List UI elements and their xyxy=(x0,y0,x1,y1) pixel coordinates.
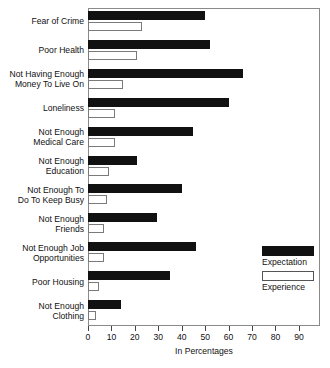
bar-expectation xyxy=(88,184,182,193)
y-axis-label: Not EnoughEducation xyxy=(0,156,84,176)
legend-label-experience: Experience xyxy=(262,282,318,292)
bar-expectation xyxy=(88,242,196,251)
x-axis-tick-label: 40 xyxy=(170,332,194,342)
legend-swatch-expectation xyxy=(262,246,314,256)
x-axis-tick xyxy=(135,326,136,331)
y-axis-label: Not EnoughMedical Care xyxy=(0,127,84,147)
y-axis-label-line: Opportunities xyxy=(0,253,84,263)
x-axis-tick xyxy=(88,326,89,331)
bar-expectation xyxy=(88,300,121,309)
bar-expectation xyxy=(88,40,210,49)
y-axis-label-line: Not Enough xyxy=(0,156,84,166)
x-axis-tick-label: 20 xyxy=(123,332,147,342)
y-axis-label-line: Loneliness xyxy=(0,103,84,113)
x-axis-tick-label: 30 xyxy=(146,332,170,342)
bar-expectation xyxy=(88,127,193,136)
x-axis-tick-label: 10 xyxy=(99,332,123,342)
legend-label-expectation: Expectation xyxy=(262,257,318,267)
x-axis-tick xyxy=(182,326,183,331)
x-axis-tick-label: 80 xyxy=(263,332,287,342)
bar-experience xyxy=(88,311,96,320)
x-axis-tick xyxy=(229,326,230,331)
y-axis-label: Not EnoughFriends xyxy=(0,214,84,234)
x-axis-tick-label: 50 xyxy=(193,332,217,342)
bar-expectation xyxy=(88,271,170,280)
y-axis-label: Loneliness xyxy=(0,103,84,113)
x-axis-tick-label: 90 xyxy=(287,332,311,342)
bar-experience xyxy=(88,22,142,31)
bar-group xyxy=(88,153,320,182)
bar-group xyxy=(88,66,320,95)
x-axis-tick xyxy=(111,326,112,331)
bar-experience xyxy=(88,80,123,89)
bar-expectation xyxy=(88,11,205,20)
y-axis-label-line: Education xyxy=(0,166,84,176)
x-axis-tick-label: 0 xyxy=(76,332,100,342)
y-axis-label-line: Not Enough To xyxy=(0,185,84,195)
bar-expectation xyxy=(88,213,157,222)
y-axis-label: Not Having EnoughMoney To Live On xyxy=(0,69,84,89)
y-axis-label: Fear of Crime xyxy=(0,16,84,26)
bar-expectation xyxy=(88,156,137,165)
x-axis-tick xyxy=(252,326,253,331)
y-axis-label-line: Not Enough xyxy=(0,127,84,137)
bar-group xyxy=(88,95,320,124)
x-axis-tick xyxy=(205,326,206,331)
x-axis-tick-label: 60 xyxy=(217,332,241,342)
chart-legend: Expectation Experience xyxy=(262,246,318,296)
bar-experience xyxy=(88,195,107,204)
bar-expectation xyxy=(88,98,229,107)
bar-group xyxy=(88,124,320,153)
y-axis-label-line: Poor Housing xyxy=(0,277,84,287)
bar-group xyxy=(88,297,320,326)
y-axis-label-line: Poor Health xyxy=(0,45,84,55)
legend-swatch-experience xyxy=(262,271,314,281)
bar-chart: Fear of CrimePoor HealthNot Having Enoug… xyxy=(0,0,330,368)
bar-group xyxy=(88,8,320,37)
bar-group xyxy=(88,181,320,210)
y-axis-label: Poor Housing xyxy=(0,277,84,287)
x-axis-tick-labels: 0102030405060708090 xyxy=(0,332,330,344)
bar-group xyxy=(88,37,320,66)
y-axis-label-line: Medical Care xyxy=(0,137,84,147)
y-axis-label-line: Fear of Crime xyxy=(0,16,84,26)
y-axis-label-line: Not Enough Job xyxy=(0,243,84,253)
y-axis-label: Not Enough ToDo To Keep Busy xyxy=(0,185,84,205)
bar-experience xyxy=(88,167,109,176)
y-axis-label: Not Enough JobOpportunities xyxy=(0,243,84,263)
y-axis-label-line: Money To Live On xyxy=(0,79,84,89)
bar-expectation xyxy=(88,69,243,78)
y-axis-label-line: Friends xyxy=(0,224,84,234)
y-axis-label-line: Clothing xyxy=(0,311,84,321)
y-axis-labels: Fear of CrimePoor HealthNot Having Enoug… xyxy=(0,8,84,326)
x-axis-title: In Percentages xyxy=(88,346,320,356)
bar-experience xyxy=(88,109,115,118)
y-axis-label-line: Not Enough xyxy=(0,214,84,224)
x-axis-tick xyxy=(275,326,276,331)
bar-experience xyxy=(88,224,104,233)
y-axis-label: Not EnoughClothing xyxy=(0,301,84,321)
bar-experience xyxy=(88,51,137,60)
bar-experience xyxy=(88,282,99,291)
y-axis-label-line: Not Having Enough xyxy=(0,69,84,79)
bar-group xyxy=(88,210,320,239)
x-axis-tick xyxy=(299,326,300,331)
y-axis-label: Poor Health xyxy=(0,45,84,55)
bar-experience xyxy=(88,138,115,147)
x-axis-tick xyxy=(158,326,159,331)
x-axis-tick-label: 70 xyxy=(240,332,264,342)
bar-experience xyxy=(88,253,104,262)
y-axis-label-line: Do To Keep Busy xyxy=(0,195,84,205)
y-axis-label-line: Not Enough xyxy=(0,301,84,311)
